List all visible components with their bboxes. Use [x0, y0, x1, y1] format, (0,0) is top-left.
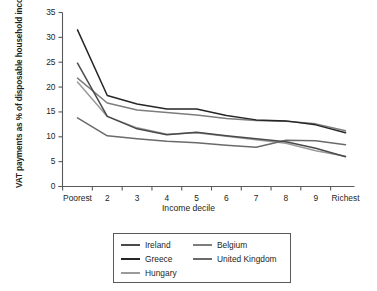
legend-item[interactable]: Hungary	[121, 266, 193, 280]
legend-item[interactable]: Ireland	[121, 238, 193, 252]
y-axis-tick-label: 0	[36, 182, 56, 191]
legend-item[interactable]: United Kingdom	[193, 252, 289, 266]
series-line-hungary	[78, 82, 346, 156]
y-axis-tick-label: 20	[36, 83, 56, 92]
legend-item[interactable]: Belgium	[193, 238, 289, 252]
legend-label: Hungary	[145, 269, 177, 278]
series-group	[78, 30, 346, 157]
legend-box: IrelandBelgiumGreeceUnited KingdomHungar…	[113, 233, 291, 283]
legend-swatch-icon	[121, 244, 140, 246]
y-axis-tick-label: 15	[36, 107, 56, 116]
y-axis-tick-label: 25	[36, 58, 56, 67]
legend-label: Belgium	[217, 241, 247, 250]
legend-label: Greece	[145, 255, 172, 264]
legend-swatch-icon	[121, 272, 140, 274]
y-axis-tick-label: 30	[36, 33, 56, 42]
y-axis-tick-label: 35	[36, 8, 56, 17]
axes-group	[59, 13, 355, 191]
series-line-ireland	[78, 63, 346, 156]
legend-swatch-icon	[121, 258, 140, 260]
legend-label: Ireland	[145, 241, 171, 250]
legend-label: United Kingdom	[217, 255, 277, 264]
legend-item[interactable]: Greece	[121, 252, 193, 266]
legend-swatch-icon	[193, 258, 212, 260]
legend-swatch-icon	[193, 244, 212, 246]
y-axis-tick-label: 5	[36, 157, 56, 166]
x-axis-tick-label: Richest	[319, 194, 373, 203]
y-axis-tick-label: 10	[36, 132, 56, 141]
vat-payments-chart-figure: VAT payments as % of disposable househol…	[0, 0, 377, 291]
x-axis-title: Income decile	[0, 203, 377, 213]
legend-items-container: IrelandBelgiumGreeceUnited KingdomHungar…	[121, 238, 289, 280]
